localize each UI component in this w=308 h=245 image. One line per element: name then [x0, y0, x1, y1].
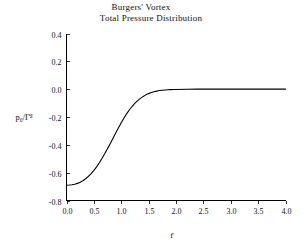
y-axis-tick-labels: 0.40.20.0-0.2-0.4-0.6-0.8	[49, 31, 62, 207]
axis-spines	[67, 34, 286, 201]
x-tick-label: 1.0	[117, 207, 127, 216]
x-tick-label: 1.5	[145, 207, 155, 216]
y-tick-label: -0.4	[49, 142, 62, 151]
chart-figure: Burgers' Vortex Total Pressure Distribut…	[0, 0, 308, 245]
x-tick-label: 3.5	[254, 207, 264, 216]
y-tick-label: -0.6	[49, 170, 62, 179]
x-tick-label: 2.5	[199, 207, 209, 216]
y-tick-label: 0.0	[52, 86, 62, 95]
y-axis-title-label: p₀/Γ̄²	[15, 112, 32, 122]
x-axis-tick-labels: 0.00.51.01.52.02.53.03.54.0	[63, 207, 292, 216]
x-tick-label: 4.0	[282, 207, 292, 216]
y-tick-label: -0.8	[49, 198, 62, 207]
x-axis-title-label: r̄	[170, 230, 174, 240]
data-curve-total-pressure	[67, 89, 286, 185]
x-tick-label: 2.0	[172, 207, 182, 216]
x-tick-label: 3.0	[227, 207, 237, 216]
y-axis-title: p₀/Γ̄²	[15, 112, 32, 122]
x-tick-label: 0.0	[63, 207, 73, 216]
y-tick-label: -0.2	[49, 114, 62, 123]
y-tick-label: 0.2	[52, 58, 62, 67]
x-tick-label: 0.5	[90, 207, 100, 216]
plot-area: 0.00.51.01.52.02.53.03.54.0 0.40.20.0-0.…	[0, 0, 308, 245]
y-tick-label: 0.4	[52, 31, 62, 40]
x-axis-title: r̄	[170, 230, 174, 240]
